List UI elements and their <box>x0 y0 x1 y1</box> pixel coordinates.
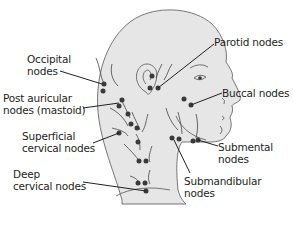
label-submandibular: Submandibular nodes <box>184 175 261 199</box>
cervical-node <box>126 112 131 117</box>
cervical-node <box>135 126 140 131</box>
cervical-node <box>144 159 149 164</box>
label-buccal: Buccal nodes <box>222 87 289 99</box>
pupil <box>198 76 202 80</box>
buccal-node <box>182 97 187 102</box>
submandibular-node <box>170 136 175 141</box>
label-submental: Submental nodes <box>218 141 273 165</box>
label-deep-cervical: Deep cervical nodes <box>13 168 86 192</box>
label-post-auricular: Post auricular nodes (mastoid) <box>3 92 85 116</box>
occipital-node <box>102 82 107 87</box>
submental-node <box>191 139 196 144</box>
parotid-node <box>148 86 153 91</box>
occipital-node <box>101 89 106 94</box>
parotid-node <box>150 74 155 79</box>
label-superficial-cervical: Superficial cervical nodes <box>22 130 95 154</box>
cervical-node <box>137 159 142 164</box>
label-occipital: Occipital nodes <box>27 53 71 77</box>
submandibular-node <box>177 137 182 142</box>
post-auricular-node <box>117 104 122 109</box>
cervical-node <box>143 181 148 186</box>
cervical-node <box>136 181 141 186</box>
cervical-node <box>136 140 141 145</box>
cervical-node <box>129 122 134 127</box>
post-auricular-node <box>120 98 125 103</box>
label-parotid: Parotid nodes <box>214 36 283 48</box>
